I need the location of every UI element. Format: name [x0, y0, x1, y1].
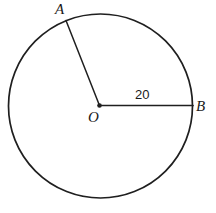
radius-line-oa — [66, 21, 100, 106]
point-label-a: A — [55, 2, 64, 17]
circle-diagram-canvas — [0, 0, 216, 213]
radius-measure-label: 20 — [135, 88, 149, 101]
geometry-figure: A B O 20 — [0, 0, 216, 213]
center-point-dot — [97, 103, 102, 108]
point-label-b: B — [196, 99, 205, 114]
center-label-o: O — [88, 110, 99, 125]
